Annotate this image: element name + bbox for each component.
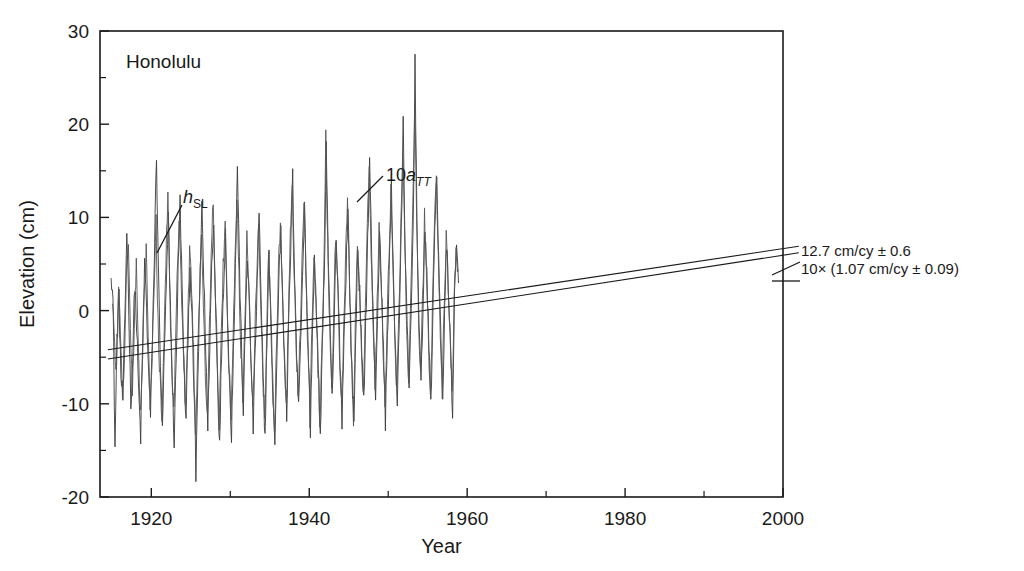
x-axis-tick-labels: 19201940196019802000 <box>130 508 804 529</box>
y-axis-ticks <box>100 31 109 497</box>
x-tick-label: 1960 <box>446 508 488 529</box>
x-tick-label: 2000 <box>762 508 804 529</box>
y-axis-tick-labels: 3020100-10-20 <box>62 21 89 508</box>
series-air-temp <box>113 103 459 435</box>
y-tick-label: 10 <box>68 207 89 228</box>
x-tick-label: 1980 <box>604 508 646 529</box>
sea-level-curve-annotation: hSL <box>157 187 208 253</box>
y-tick-label: 0 <box>78 301 89 322</box>
sea-level-chart: 3020100-10-20 19201940196019802000 Year … <box>0 0 1024 571</box>
panel-label: Honolulu <box>126 51 201 72</box>
trend-sea-level-label: 12.7 cm/cy ± 0.6 <box>801 242 911 259</box>
x-axis-title: Year <box>421 535 462 557</box>
sea-level-curve-label: hSL <box>183 187 208 211</box>
series-sea-level <box>111 54 458 482</box>
trend-annotations: 12.7 cm/cy ± 0.6 10× (1.07 cm/cy ± 0.09) <box>772 242 959 281</box>
y-tick-label: -20 <box>62 487 89 508</box>
x-tick-label: 1920 <box>130 508 172 529</box>
y-tick-label: -10 <box>62 394 89 415</box>
sea-level-subscript: SL <box>193 197 208 211</box>
y-tick-label: 20 <box>68 114 89 135</box>
air-temp-subscript: TT <box>416 175 432 189</box>
air-temp-prefix: 10 <box>386 165 406 185</box>
y-axis-title: Elevation (cm) <box>16 200 38 328</box>
trend-sea-level-leader <box>772 262 800 275</box>
air-temp-symbol: a <box>406 165 416 185</box>
plot-data-area <box>111 54 458 482</box>
air-temp-curve-label: 10aTT <box>386 165 432 189</box>
chart-figure: 3020100-10-20 19201940196019802000 Year … <box>0 0 1024 571</box>
trend-air-temp-label: 10× (1.07 cm/cy ± 0.09) <box>801 260 959 277</box>
x-tick-label: 1940 <box>288 508 330 529</box>
y-tick-label: 30 <box>68 21 89 42</box>
sea-level-symbol: h <box>183 187 193 207</box>
x-axis-ticks <box>151 488 783 497</box>
